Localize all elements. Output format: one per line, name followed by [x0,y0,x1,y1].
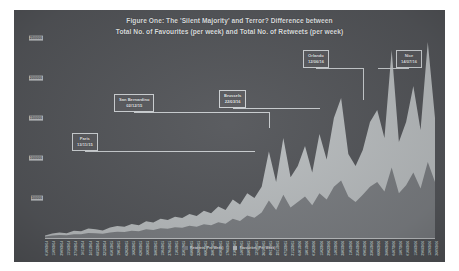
annotation-callout-brussels: Brussels22/03/16 [219,90,246,108]
annotation-leader-line [378,68,409,69]
chart-title-line-1: Figure One: The 'Silent Majority' and Te… [14,16,445,27]
annotation-leader-line [269,112,270,128]
annotation-leader-line [363,68,364,100]
annotation-leader-line [134,112,269,113]
annotation-callout-orlando: Orlando12/06/16 [303,50,329,68]
chart-screenshot: Figure One: The 'Silent Majority' and Te… [0,0,459,271]
plot-area: 2500000200000015000001000000500000 [45,38,435,238]
annotation-name: Nice [405,53,414,58]
legend-item[interactable]: Retweets (Per Week) [184,246,224,250]
annotation-date: 12/06/16 [308,59,324,65]
legend-label: Retweets (Per Week) [190,246,223,250]
y-axis-tick-label: 2000000 [29,76,43,81]
chart-title-line-2: Total No. of Favourites (per week) and T… [14,27,445,38]
chart-legend: Retweets (Per Week)Favourites (Per Week) [14,246,445,250]
y-axis-tick-label: 2500000 [29,36,43,41]
legend-item[interactable]: Favourites (Per Week) [233,246,275,250]
annotation-date: 22/03/16 [224,99,241,105]
annotation-callout-san-bernardino: San Bernardino02/12/15 [114,94,154,112]
annotation-name: Brussels [224,93,241,98]
chart-frame: Figure One: The 'Silent Majority' and Te… [14,10,445,262]
annotation-leader-line [85,151,255,152]
legend-swatch [233,246,237,250]
legend-swatch [184,246,188,250]
annotation-callout-nice: Nice14/07/16 [396,50,422,68]
annotation-leader-line [233,108,320,109]
annotation-date: 13/11/15 [77,142,93,148]
annotation-name: Orlando [308,53,324,58]
y-axis-tick-label: 500000 [31,196,43,201]
y-axis-tick-label: 1000000 [29,156,43,161]
chart-title: Figure One: The 'Silent Majority' and Te… [14,16,445,37]
annotation-name: San Bernardino [119,97,149,102]
x-axis-ticks: 01/09/201415/09/201429/09/201413/10/2014… [45,239,435,261]
legend-label: Favourites (Per Week) [240,246,276,250]
annotation-callout-paris: Paris13/11/15 [72,133,98,151]
annotation-date: 02/12/15 [119,103,149,109]
annotation-leader-line [316,68,363,69]
annotation-date: 14/07/16 [401,59,417,65]
annotation-name: Paris [80,136,90,141]
area-chart-svg [45,38,435,238]
y-axis-tick-label: 1500000 [29,116,43,121]
